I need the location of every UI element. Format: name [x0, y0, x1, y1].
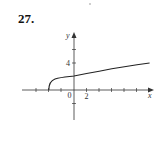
- y-axis-label: y: [65, 31, 70, 40]
- origin-label: 0: [68, 91, 72, 100]
- x-axis-label: x: [147, 91, 152, 100]
- y-axis-arrow-icon: [72, 32, 77, 38]
- y-tick-label-4: 4: [66, 59, 70, 68]
- function-curve: [49, 63, 150, 90]
- function-graph: y x 4 0 2: [0, 0, 160, 142]
- x-tick-label-2: 2: [85, 92, 89, 101]
